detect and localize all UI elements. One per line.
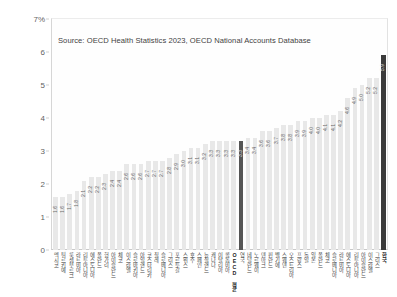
x-axis-category: 슬로바키아	[130, 251, 137, 297]
bar-group[interactable]: 3.8	[281, 19, 286, 250]
bar[interactable]	[210, 141, 215, 250]
bar-group[interactable]: 4.6	[345, 19, 350, 250]
bar-group[interactable]: 5.9	[381, 19, 386, 250]
bar-group[interactable]: 5.2	[367, 19, 372, 250]
bar[interactable]	[267, 131, 272, 250]
bar-value-label: 2.1	[82, 190, 87, 197]
bar-group[interactable]: 5.2	[374, 19, 379, 250]
bar-group[interactable]: 3.0	[182, 19, 187, 250]
bar-group[interactable]: 3.8	[288, 19, 293, 250]
x-axis-category-label: 이탈리아	[217, 252, 222, 272]
bar-group[interactable]: 2.6	[124, 19, 129, 250]
bar-group[interactable]: 2.6	[132, 19, 137, 250]
bar-value-label: 5.0	[359, 94, 364, 101]
bar[interactable]	[260, 131, 265, 250]
x-axis-category-label: 아이슬란드	[110, 252, 115, 277]
bar-group[interactable]: 2.7	[146, 19, 151, 250]
bar-group[interactable]: 3.4	[253, 19, 258, 250]
bar-value-label: 2.6	[131, 173, 136, 180]
x-axis-category: 독일	[301, 251, 308, 297]
bar-group[interactable]: 3.2	[203, 19, 208, 250]
bar[interactable]	[224, 141, 229, 250]
bar-group[interactable]: 2.2	[89, 19, 94, 250]
bar[interactable]	[303, 121, 308, 250]
bar-group[interactable]: 1.8	[75, 19, 80, 250]
bar[interactable]	[374, 78, 379, 250]
x-axis-category-label: 덴마크	[260, 252, 265, 267]
x-axis-category: 한국	[380, 251, 387, 297]
bar-group[interactable]: 3.3	[210, 19, 215, 250]
bar-group[interactable]: 3.9	[303, 19, 308, 250]
bar-group[interactable]: 1.7	[67, 19, 72, 250]
bar-value-label: 3.6	[260, 140, 265, 147]
x-axis-category: 에스토니아	[88, 251, 95, 297]
bar-group[interactable]: 1.6	[53, 19, 58, 250]
bar[interactable]	[246, 138, 251, 250]
bar-value-label: 3.3	[217, 150, 222, 157]
bar-group[interactable]: 3.1	[189, 19, 194, 250]
bar[interactable]	[367, 78, 372, 250]
bar-group[interactable]: 4.0	[310, 19, 315, 250]
bar-group[interactable]: 4.2	[338, 19, 343, 250]
bar[interactable]	[274, 128, 279, 250]
bar-group[interactable]: 3.3	[217, 19, 222, 250]
bar-group[interactable]: 3.7	[274, 19, 279, 250]
bar[interactable]	[231, 141, 236, 250]
bar[interactable]	[345, 98, 350, 250]
bar-value-label: 4.0	[310, 127, 315, 134]
bar[interactable]	[310, 118, 315, 250]
bar[interactable]	[281, 125, 286, 250]
bar-group[interactable]: 3.3	[224, 19, 229, 250]
bar-group[interactable]: 2.8	[167, 19, 172, 250]
x-axis-category-label: 라트비아	[74, 252, 79, 272]
bar-group[interactable]: 3.3	[239, 19, 244, 250]
bar[interactable]	[338, 111, 343, 250]
bar-group[interactable]: 2.3	[103, 19, 108, 250]
bar-group[interactable]: 2.6	[139, 19, 144, 250]
bar-group[interactable]: 2.1	[82, 19, 87, 250]
bar-group[interactable]: 3.4	[246, 19, 251, 250]
bar[interactable]	[217, 141, 222, 250]
bar-group[interactable]: 3.6	[267, 19, 272, 250]
x-axis-category: 아이슬란드	[109, 251, 116, 297]
bar-group[interactable]: 4.1	[324, 19, 329, 250]
x-axis-category: 호주	[187, 251, 194, 297]
bar[interactable]	[331, 115, 336, 250]
bar-group[interactable]: 2.4	[110, 19, 115, 250]
bar[interactable]	[296, 121, 301, 250]
bar-group[interactable]: 2.9	[174, 19, 179, 250]
bar[interactable]	[381, 55, 386, 250]
bar-group[interactable]: 3.1	[196, 19, 201, 250]
bar[interactable]	[203, 144, 208, 250]
bar[interactable]	[239, 141, 244, 250]
x-axis-category-label: 헝가리	[103, 252, 108, 267]
bar-group[interactable]: 4.1	[331, 19, 336, 250]
x-axis-category: 네덜란드	[244, 251, 251, 297]
bar-group[interactable]: 3.6	[260, 19, 265, 250]
bar[interactable]	[353, 88, 358, 250]
bar-group[interactable]: 2.7	[153, 19, 158, 250]
bar-group[interactable]: 4.0	[317, 19, 322, 250]
bar[interactable]	[253, 138, 258, 250]
x-axis-category-label: 체코	[117, 252, 122, 262]
bar-group[interactable]: 3.9	[296, 19, 301, 250]
y-axis-tick-mark	[46, 217, 49, 218]
bar-group[interactable]: 3.3	[231, 19, 236, 250]
x-axis-category-label: 그리스	[167, 252, 172, 267]
bar-group[interactable]: 2.2	[96, 19, 101, 250]
bar-value-label: 5.2	[367, 87, 372, 94]
x-axis-category-label: 폴란드	[317, 252, 322, 267]
bar-group[interactable]: 2.7	[160, 19, 165, 250]
bar[interactable]	[324, 115, 329, 250]
x-axis-category: 코스타리카	[145, 251, 152, 297]
y-axis-tick-label: 1	[41, 213, 45, 222]
bar-group[interactable]: 5.0	[360, 19, 365, 250]
bar[interactable]	[360, 85, 365, 250]
bar-group[interactable]: 4.9	[353, 19, 358, 250]
bar-group[interactable]: 1.6	[60, 19, 65, 250]
bar[interactable]	[317, 118, 322, 250]
x-axis-category: 노르웨이	[252, 251, 259, 297]
bar[interactable]	[288, 125, 293, 250]
bar-value-label: 3.8	[288, 134, 293, 141]
bar-group[interactable]: 2.4	[117, 19, 122, 250]
